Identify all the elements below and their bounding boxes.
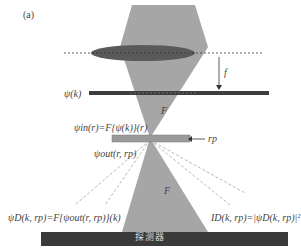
ptychography-diagram: (a) f ψ(k) F ψin(r)=F{ψ(k)}(r) rp ψout(r… [0,0,301,252]
lens-ellipse [91,45,195,61]
psi-out-label: ψout(r, rp) [94,149,136,159]
upper-beam-cone [120,5,208,138]
psi-k-label: ψ(k) [64,89,81,99]
arrow-head-icon [216,85,222,90]
I-D-label: ID(k, rp)=|ψD(k, rp)|² [211,213,300,223]
panel-label: (a) [23,9,34,20]
psi-in-label: ψin(r)=F{ψ(k)}(r) [74,123,147,133]
lower-cone-F-label: F [164,186,170,196]
rp-label: rp [208,134,217,144]
focal-length-label: f [224,68,227,78]
detector-label: 探测器 [135,230,165,243]
upper-cone-F-label: F [161,106,167,116]
psi-D-label: ψD(k, rp)=F{ψout(r, rp)}(k) [8,213,121,223]
